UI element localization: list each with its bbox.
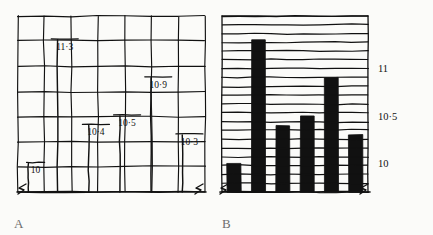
grid-line-horizontal [18, 66, 205, 67]
grid-line-vertical [125, 16, 126, 192]
grid-line-horizontal [222, 129, 369, 130]
axis-tick-label: 10·5 [378, 111, 397, 122]
grid-line-horizontal [222, 68, 369, 69]
axis-tick-label: 11 [378, 63, 388, 74]
panel-b-bars [227, 40, 363, 192]
panel-b-grid [222, 16, 369, 193]
grid-line-horizontal [18, 91, 205, 92]
value-label: 10·9 [150, 80, 168, 90]
panel-a-value-labels: 1011·310·410·510·910·3 [27, 39, 203, 176]
grid-line-horizontal [222, 139, 367, 140]
bar [151, 78, 152, 192]
panel-b-chart: 1010·511 [216, 0, 433, 235]
axis-tick-label: 10 [378, 158, 389, 169]
bar [251, 40, 265, 192]
panel-b-baseline [220, 192, 370, 193]
grid-line-horizontal [18, 116, 206, 117]
panel-b-axis-labels: 1010·511 [378, 63, 397, 169]
grid-line-horizontal [222, 86, 368, 87]
grid-line-horizontal [222, 24, 368, 25]
grid-line-horizontal [222, 59, 368, 60]
value-label: 10·3 [181, 137, 199, 147]
grid-line-horizontal [17, 141, 205, 142]
grid-line-horizontal [222, 112, 368, 113]
grid-line-horizontal [222, 33, 368, 34]
value-label-box [27, 162, 45, 163]
grid-line-horizontal [222, 148, 368, 149]
grid-line-vertical [98, 17, 99, 193]
grid-line-horizontal [222, 183, 368, 184]
grid-line-horizontal [18, 15, 205, 16]
grid-line-horizontal [222, 50, 368, 51]
grid-line-horizontal [222, 77, 368, 78]
panel-a-grid [17, 15, 205, 192]
grid-line-horizontal [222, 157, 369, 158]
bar [57, 40, 58, 192]
grid-line-horizontal [222, 42, 368, 43]
grid-line-horizontal [18, 40, 205, 41]
grid-line-horizontal [18, 166, 205, 168]
value-label-box [82, 124, 109, 125]
grid-line-vertical [43, 16, 44, 192]
value-label-box [114, 115, 141, 116]
panel-a-letter: A [14, 216, 24, 232]
panel-b-letter: B [222, 216, 231, 232]
panel-a-chart: 1011·310·410·510·910·3 [0, 0, 216, 235]
bar [300, 116, 314, 192]
grid-line-vertical [205, 16, 206, 192]
grid-line-horizontal [222, 174, 368, 175]
value-label: 10·4 [87, 127, 105, 137]
grid-line-vertical [178, 17, 179, 193]
grid-line-horizontal [222, 103, 368, 104]
panel-a: 1011·310·410·510·910·3 A [0, 0, 216, 235]
panel-a-bars [28, 40, 183, 192]
grid-line-horizontal [222, 165, 367, 166]
panel-b: 1010·511 B [216, 0, 433, 235]
grid-line-horizontal [223, 16, 368, 17]
figure-bar-chart-comparison: 1011·310·410·510·910·3 A 1010·511 B [0, 0, 433, 235]
value-label: 11·3 [56, 42, 73, 52]
value-label: 10·5 [118, 118, 136, 128]
value-label: 10 [31, 165, 41, 175]
bar [28, 163, 29, 192]
grid-line-horizontal [222, 122, 369, 123]
grid-line-vertical [17, 16, 18, 192]
